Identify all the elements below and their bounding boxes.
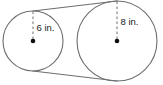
- belt-group: [33, 1, 117, 81]
- small-pulley-center-dot: [31, 39, 36, 44]
- small-radius-label: 6 in.: [37, 22, 55, 33]
- large-radius-label: 8 in.: [121, 16, 139, 27]
- pulleys-group: [3, 1, 157, 81]
- center-dots-group: [31, 39, 120, 44]
- pulley-belt-figure: 6 in. 8 in.: [0, 0, 163, 85]
- pulley-diagram-svg: 6 in. 8 in.: [0, 0, 163, 85]
- large-pulley-center-dot: [115, 39, 120, 44]
